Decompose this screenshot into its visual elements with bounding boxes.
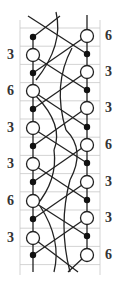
pin-dot <box>30 179 36 185</box>
pin-circle <box>81 139 94 152</box>
pin-circle <box>27 232 40 245</box>
diagonal-thread <box>33 185 82 219</box>
pin-circle <box>81 102 94 115</box>
pin-dot <box>84 87 90 93</box>
left-count-label: 3 <box>7 157 14 171</box>
pin-circle <box>27 195 40 208</box>
diagonal-thread <box>33 148 82 182</box>
diagonal-thread <box>33 111 82 146</box>
right-count-label: 3 <box>105 101 112 115</box>
pin-dot <box>30 143 36 149</box>
pin-dot <box>84 124 90 130</box>
diagonal-thread <box>33 75 82 109</box>
diagonal-thread <box>37 204 87 236</box>
lace-diagram <box>0 0 122 285</box>
pin-circle <box>81 212 94 225</box>
pin-circle <box>27 85 40 98</box>
right-count-label: 6 <box>105 248 112 262</box>
left-count-label: 6 <box>7 194 14 208</box>
pin-dot <box>84 160 90 166</box>
pin-dot <box>84 51 90 57</box>
arc-thread <box>40 206 56 272</box>
pin-dot <box>84 233 90 239</box>
pin-dot <box>30 106 36 112</box>
left-count-label: 6 <box>7 84 14 98</box>
pin-dot <box>84 197 90 203</box>
pin-circle <box>81 66 94 79</box>
right-count-label: 3 <box>105 65 112 79</box>
pin-circle <box>27 158 40 171</box>
pin-dot <box>30 216 36 222</box>
diagonal-thread <box>33 221 82 255</box>
right-count-label: 6 <box>105 138 112 152</box>
diagonal-thread <box>33 39 82 73</box>
left-count-label: 3 <box>7 48 14 62</box>
pin-circle <box>81 30 94 43</box>
pin-dot <box>30 70 36 76</box>
pin-circle <box>81 176 94 189</box>
left-count-label: 3 <box>7 121 14 135</box>
left-count-label: 3 <box>7 231 14 245</box>
diagonal-thread <box>37 241 78 272</box>
pin-circle <box>27 49 40 62</box>
right-count-label: 6 <box>105 29 112 43</box>
pin-circle <box>27 122 40 135</box>
pin-dot <box>30 34 36 40</box>
right-count-label: 3 <box>105 175 112 189</box>
diagonal-thread <box>37 131 87 163</box>
right-count-label: 3 <box>105 211 112 225</box>
pin-circle <box>81 249 94 262</box>
pin-dot <box>30 252 36 258</box>
